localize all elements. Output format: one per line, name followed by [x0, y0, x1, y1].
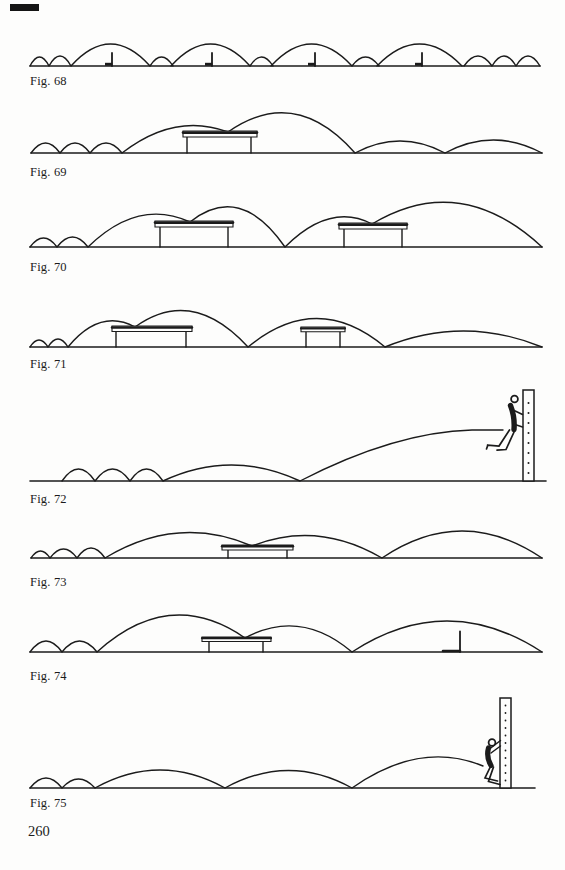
figure-caption: Fig. 72	[30, 492, 67, 507]
climbing-wall	[500, 698, 511, 788]
fig-69-drawing	[31, 113, 542, 153]
fig-75-drawing	[30, 698, 535, 788]
figure-caption: Fig. 68	[30, 74, 67, 89]
vault-box	[301, 327, 345, 347]
bench-box	[222, 545, 293, 558]
fig-70-drawing	[30, 202, 542, 247]
bounce-arcs	[31, 113, 542, 153]
bounce-arcs	[62, 430, 503, 481]
fig-72-drawing	[30, 390, 546, 481]
bounce-arcs	[30, 615, 542, 652]
vault-box	[155, 221, 233, 247]
bench-box	[202, 637, 271, 652]
fig-68-drawing	[30, 44, 540, 66]
figures-canvas	[0, 0, 565, 870]
book-page: Fig. 68 Fig. 69 Fig. 70 Fig. 71 Fig. 72 …	[0, 0, 565, 870]
bounce-arcs	[30, 202, 542, 247]
page-number: 260	[28, 823, 50, 840]
climber-figure	[485, 739, 501, 784]
figure-caption: Fig. 69	[30, 165, 67, 180]
bounce-arcs	[30, 757, 483, 788]
figure-caption: Fig. 74	[30, 669, 67, 684]
figure-caption: Fig. 75	[30, 796, 67, 811]
hurdles	[105, 53, 422, 66]
figure-caption: Fig. 71	[30, 357, 67, 372]
climbing-wall	[523, 390, 534, 481]
fig-74-drawing	[30, 615, 542, 652]
bounce-arcs	[30, 44, 540, 66]
figure-caption: Fig. 73	[30, 575, 67, 590]
vault-box	[339, 223, 407, 247]
hurdle	[443, 632, 460, 653]
fig-73-drawing	[31, 531, 542, 558]
climber-figure	[487, 396, 523, 451]
figure-caption: Fig. 70	[30, 260, 67, 275]
vault-box	[183, 131, 257, 153]
fig-71-drawing	[30, 311, 542, 347]
vault-box	[112, 326, 192, 347]
bounce-arcs	[30, 311, 542, 347]
